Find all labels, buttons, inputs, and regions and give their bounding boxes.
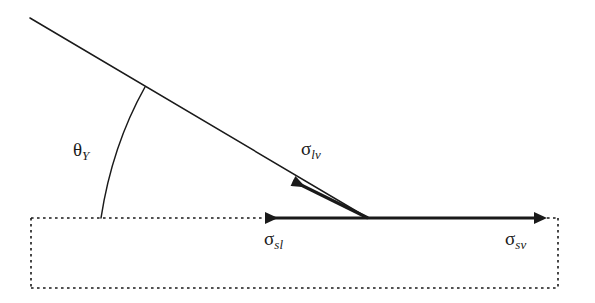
sigma-sv-label: σsv bbox=[505, 229, 526, 251]
liquid-vapor-interface-line bbox=[30, 18, 368, 218]
sigma-sv-symbol: σ bbox=[505, 228, 515, 249]
contact-angle-label: θY bbox=[73, 140, 90, 162]
substrate-rect bbox=[31, 218, 558, 288]
sigma-sl-subscript: sl bbox=[274, 237, 283, 252]
contact-angle-arc bbox=[101, 87, 145, 218]
sigma-lv-vector bbox=[293, 181, 368, 218]
theta-subscript: Y bbox=[82, 148, 89, 163]
sigma-lv-label: σlv bbox=[301, 139, 321, 161]
sigma-lv-subscript: lv bbox=[311, 147, 321, 162]
sigma-sl-symbol: σ bbox=[264, 228, 274, 249]
sigma-lv-symbol: σ bbox=[301, 138, 311, 159]
theta-symbol: θ bbox=[73, 139, 82, 160]
sigma-sl-label: σsl bbox=[264, 229, 283, 251]
contact-angle-diagram: θY σlv σsl σsv bbox=[0, 0, 595, 303]
sigma-sv-subscript: sv bbox=[515, 237, 526, 252]
